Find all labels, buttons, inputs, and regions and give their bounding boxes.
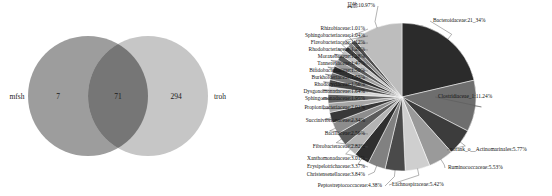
venn-label-left-set: mfsh [4, 92, 30, 101]
pie-slice-label: Fibrobacteraceae:2.82% [252, 143, 365, 150]
pie-slice-label: Succinivibrionaceae:2.34% [252, 117, 365, 124]
pie-leader-line [368, 166, 377, 175]
pie-slice-label: Bacillaceae:2.56% [252, 130, 365, 137]
pie-slice-label: Erysipelotrichaceae:3.37% [252, 163, 365, 170]
venn-diagram: 7 71 294 mfsh troh [0, 0, 252, 196]
pie-leader-line [375, 6, 378, 28]
pie-slice-label: Tannerellaceae:1.47% [252, 60, 365, 67]
pie-slice-label: Christensenellaceae:3.84% [252, 171, 365, 178]
pie-slice-label: Rhizobiaceae:1.01% [252, 25, 365, 32]
venn-count-intersection: 71 [104, 92, 132, 101]
pie-slice-label: Lachnospiraceae:5.42% [392, 181, 444, 188]
pie-slice-label: Clostridiaceae_1:11.24% [438, 93, 492, 100]
pie-slice-label: Moraxellaceae:1.28% [252, 53, 365, 60]
pie-chart: Bacteroidaceae:21_34%Clostridiaceae_1:11… [252, 0, 552, 196]
pie-slice-label: Bifidobacteriaceae:1.50% [252, 67, 365, 74]
pie-slice-label: Sphingobacteriaceae:1.04% [252, 32, 365, 39]
pie-slice-label: Ruminococcaceae:5.53% [448, 164, 503, 171]
figure-root: 7 71 294 mfsh troh Bacteroidaceae:21_34%… [0, 0, 552, 196]
pie-slice-label: Xanthomonadaceae:3.01% [252, 155, 365, 162]
pie-slice-label: Dysgonomonadaceae:1.64% [252, 88, 365, 95]
pie-slice-label: Bacteroidaceae:21_34% [433, 17, 485, 24]
venn-count-right-only: 294 [162, 92, 190, 101]
venn-label-right-set: troh [206, 92, 234, 101]
pie-slice-label: Peptostreptococcaceae:4.38% [252, 182, 382, 189]
pie-leader-line [441, 159, 445, 168]
pie-slice-label: Rhodocyclaceae:1.56% [252, 81, 365, 88]
pie-slice-label: Propionibacteriaceae:2.01% [252, 104, 365, 111]
pie-slice-label: 其他:10.97% [252, 2, 375, 9]
pie-slice-label: norank_o__Actinomarinales:5.77% [450, 146, 527, 153]
pie-slice-label: Flavobacteriaceae:1.12% [252, 39, 365, 46]
pie-slice-label: Sphingomonadaceae:1.95% [252, 95, 365, 102]
pie-slice-label: Burkholderiaceae:1.55% [252, 74, 365, 81]
venn-count-left-only: 7 [44, 92, 72, 101]
pie-slice-label: Rhodobacteriaceae:1.25% [252, 46, 365, 53]
